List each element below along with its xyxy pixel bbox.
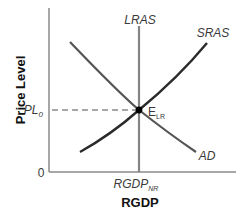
- ad-label: AD: [198, 149, 216, 163]
- origin-label: 0: [38, 166, 45, 180]
- equilibrium-label: ELR: [148, 105, 165, 120]
- equilibrium-point: [136, 107, 143, 114]
- as-ad-chart: LRAS SRAS AD PL0 ELR 0 RGDPNR RGDP Price…: [0, 0, 252, 215]
- rgdp-nr-tick-label: RGDPNR: [114, 177, 159, 192]
- y-axis-title: Price Level: [13, 56, 28, 125]
- x-axis-title: RGDP: [121, 195, 159, 210]
- lras-label: LRAS: [124, 13, 155, 27]
- sras-label: SRAS: [197, 26, 230, 40]
- ad-curve: [70, 42, 196, 152]
- sras-curve: [80, 43, 207, 152]
